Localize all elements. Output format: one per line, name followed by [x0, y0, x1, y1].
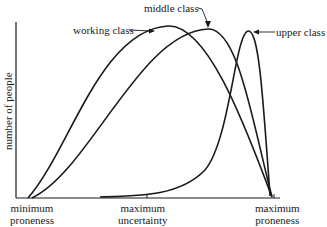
x-label-max-line2: proneness	[255, 214, 300, 226]
x-label-min-line2: proneness	[10, 214, 54, 226]
x-label-maximum-uncertainty: maximum uncertainty	[118, 202, 167, 226]
x-label-mid-line2: uncertainty	[118, 214, 167, 226]
upper-class-label: upper class	[276, 26, 325, 38]
x-label-max-line1: maximum	[255, 202, 300, 214]
x-label-maximum-proneness: maximum proneness	[255, 202, 300, 226]
x-label-min-line1: minimum	[10, 202, 54, 214]
upper-class-arrowhead	[253, 30, 259, 35]
upper-class-curve	[100, 31, 270, 197]
middle-class-label: middle class	[144, 2, 199, 14]
x-label-mid-line1: maximum	[118, 202, 167, 214]
middle-class-curve	[32, 29, 272, 198]
working-class-label: working class	[73, 24, 134, 36]
x-label-minimum-proneness: minimum proneness	[10, 202, 54, 226]
y-axis-label: number of people	[2, 72, 14, 150]
middle-class-arrowhead	[205, 21, 211, 28]
